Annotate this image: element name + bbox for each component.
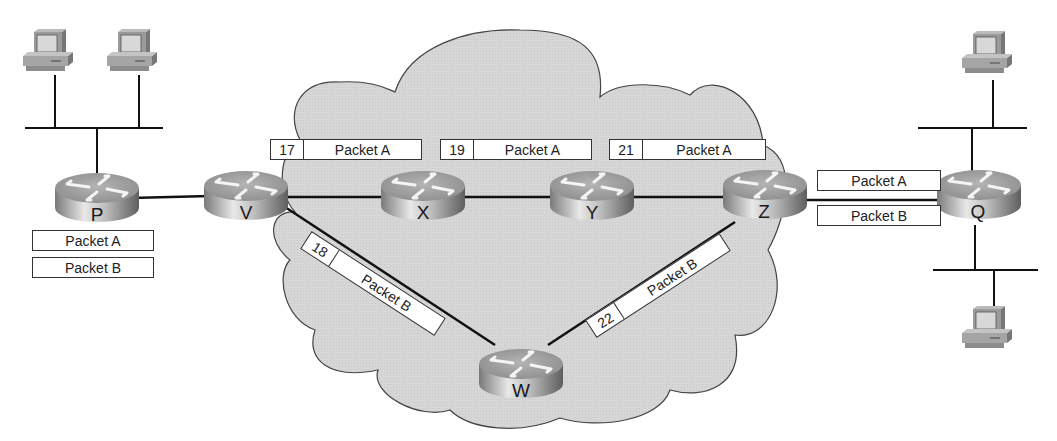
- router-label-y: Y: [577, 202, 607, 224]
- pc-icon: [962, 31, 1012, 73]
- packet-label: Packet A: [304, 142, 421, 158]
- packet-label: Packet A: [33, 233, 153, 249]
- sequence-number: 19: [441, 140, 474, 159]
- router-label-p: P: [82, 204, 112, 226]
- network-diagram: P V X Y Z W Q Packet A Packet B 17 Packe…: [0, 0, 1057, 441]
- left-lan: [25, 75, 163, 175]
- router-label-z: Z: [749, 201, 779, 223]
- packet-label: Packet B: [33, 260, 153, 276]
- right-top-lan: [918, 80, 1027, 172]
- packet-label: Packet A: [474, 142, 591, 158]
- pc-icon: [23, 29, 73, 71]
- path-label-v-x: 17 Packet A: [270, 139, 422, 160]
- router-label-q: Q: [963, 201, 993, 223]
- sequence-number: 17: [271, 140, 304, 159]
- pc-icon: [962, 306, 1012, 348]
- packet-label: Packet A: [643, 142, 765, 158]
- pc-icon: [107, 29, 157, 71]
- right-bottom-lan: [933, 225, 1038, 310]
- packet-label: Packet A: [818, 173, 940, 189]
- path-label-y-z: 21 Packet A: [609, 139, 766, 160]
- link-packet-b: Packet B: [817, 205, 941, 226]
- router-label-w: W: [506, 380, 536, 402]
- source-packet-a: Packet A: [32, 230, 154, 251]
- source-packet-b: Packet B: [32, 257, 154, 278]
- packet-label: Packet B: [818, 208, 940, 224]
- router-label-x: X: [408, 202, 438, 224]
- router-label-v: V: [231, 202, 261, 224]
- link-packet-a: Packet A: [817, 170, 941, 191]
- sequence-number: 21: [610, 140, 643, 159]
- path-label-x-y: 19 Packet A: [440, 139, 592, 160]
